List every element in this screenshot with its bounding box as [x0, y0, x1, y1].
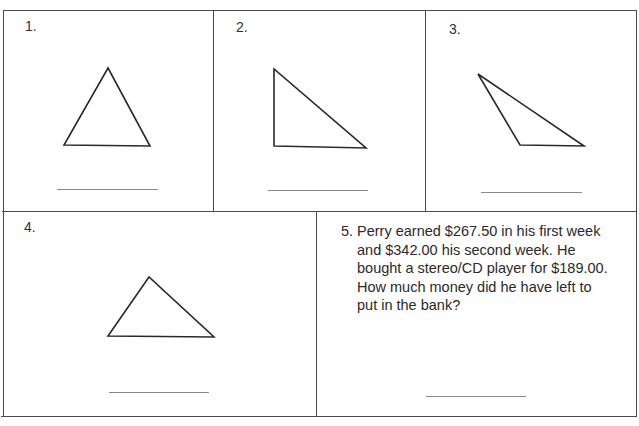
triangles-layer [0, 0, 639, 426]
problem-2-triangle [274, 69, 366, 148]
problem-4-triangle [108, 277, 214, 337]
problem-3-triangle [478, 74, 584, 146]
problem-1-triangle [64, 68, 150, 146]
